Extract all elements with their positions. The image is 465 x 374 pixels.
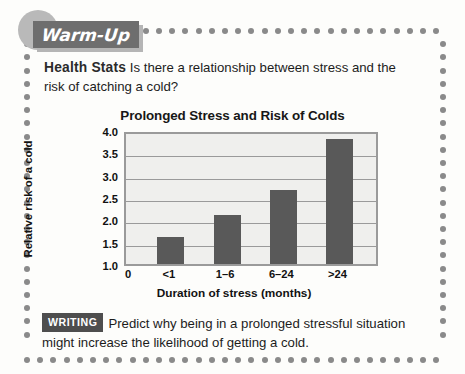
border-dot: [209, 357, 215, 363]
border-dot: [169, 28, 175, 34]
border-dot: [380, 357, 386, 363]
border-dot: [143, 357, 149, 363]
bar: [214, 215, 241, 264]
border-dot: [328, 28, 334, 34]
border-dot: [275, 357, 281, 363]
border-dot: [367, 28, 373, 34]
plot-area: [124, 132, 378, 266]
border-dot: [420, 357, 426, 363]
border-dot: [440, 305, 446, 311]
border-dot: [314, 28, 320, 34]
chart-title: Prolonged Stress and Risk of Colds: [0, 108, 465, 123]
border-dot: [433, 357, 439, 363]
border-dot: [64, 357, 70, 363]
border-dot: [341, 357, 347, 363]
border-dot: [407, 357, 413, 363]
border-dot: [182, 28, 188, 34]
border-dot: [248, 28, 254, 34]
border-dot: [169, 357, 175, 363]
y-axis-tick-label: 3.0: [102, 171, 118, 183]
border-dot: [222, 28, 228, 34]
border-dot: [182, 357, 188, 363]
warm-up-label: Warm-Up: [41, 25, 131, 45]
y-axis-tick-label: 3.5: [102, 148, 118, 160]
x-axis-title: Duration of stress (months): [88, 286, 380, 300]
x-axis-tick-label: <1: [163, 268, 176, 280]
border-dot: [130, 357, 136, 363]
border-dot: [440, 68, 446, 74]
border-dot: [24, 318, 30, 324]
border-dot: [301, 28, 307, 34]
border-dot: [37, 357, 43, 363]
border-dot: [367, 357, 373, 363]
border-dot: [440, 332, 446, 338]
y-axis-tick-label: 4.0: [102, 126, 118, 138]
border-dot: [24, 68, 30, 74]
border-dot: [341, 28, 347, 34]
bar: [157, 237, 184, 264]
border-dot: [156, 28, 162, 34]
border-dot: [288, 28, 294, 34]
border-dot: [103, 357, 109, 363]
health-stats-intro: Health Stats Is there a relationship bet…: [44, 58, 416, 96]
border-dot: [90, 357, 96, 363]
border-dot: [440, 318, 446, 324]
border-dot: [248, 357, 254, 363]
border-dot: [262, 28, 268, 34]
bar-chart: Prolonged Stress and Risk of Colds Relat…: [0, 108, 465, 303]
border-dot: [24, 81, 30, 87]
health-stats-heading: Health Stats: [44, 60, 126, 75]
border-dot: [440, 41, 446, 47]
border-dot: [143, 28, 149, 34]
border-dot: [262, 357, 268, 363]
bar: [326, 139, 353, 264]
y-axis-title: Relative risk of a cold: [22, 129, 34, 269]
x-axis-tick-labels: 0<11–66–24>24: [88, 268, 388, 286]
writing-badge: WRITING: [42, 313, 103, 332]
border-dot: [196, 28, 202, 34]
border-dot: [380, 28, 386, 34]
border-dot: [77, 357, 83, 363]
x-axis-tick-label: 1–6: [216, 268, 235, 280]
border-dot: [222, 357, 228, 363]
border-dot: [354, 28, 360, 34]
border-dot: [116, 357, 122, 363]
border-dot: [354, 357, 360, 363]
border-dot: [420, 28, 426, 34]
writing-prompt: WRITINGPredict why being in a prolonged …: [42, 313, 420, 352]
border-dot: [301, 357, 307, 363]
border-dot: [394, 28, 400, 34]
border-dot: [235, 357, 241, 363]
border-dot: [394, 357, 400, 363]
border-dot: [235, 28, 241, 34]
border-dot: [407, 28, 413, 34]
x-axis-tick-label: >24: [328, 268, 347, 280]
border-dot: [156, 357, 162, 363]
y-axis-tick-labels: 4.03.53.02.52.01.51.0: [88, 132, 118, 266]
border-dot: [275, 28, 281, 34]
border-dot: [314, 357, 320, 363]
border-dot: [50, 357, 56, 363]
border-dot: [288, 357, 294, 363]
border-dot: [433, 28, 439, 34]
border-dot: [328, 357, 334, 363]
border-dot: [24, 332, 30, 338]
border-dot: [24, 357, 30, 363]
bar: [270, 190, 297, 264]
y-axis-tick-label: 1.5: [102, 238, 118, 250]
border-dot: [24, 305, 30, 311]
border-dot: [196, 357, 202, 363]
border-dot: [209, 28, 215, 34]
y-axis-tick-label: 2.5: [102, 193, 118, 205]
border-dot: [440, 81, 446, 87]
banner-plate: Warm-Up: [33, 21, 139, 48]
border-dot: [24, 54, 30, 60]
y-axis-tick-label: 2.0: [102, 215, 118, 227]
x-axis-tick-label: 0: [125, 268, 131, 280]
border-dot: [24, 94, 30, 100]
border-dot: [440, 54, 446, 60]
x-axis-tick-label: 6–24: [269, 268, 294, 280]
border-dot: [440, 94, 446, 100]
